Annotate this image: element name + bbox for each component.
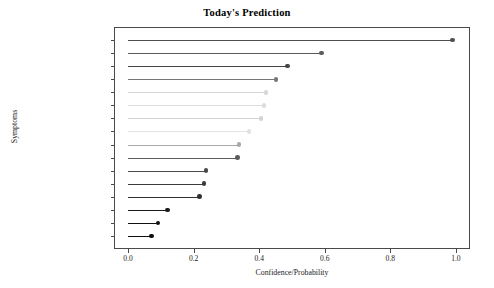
- x-axis-title: Confidence/Probability: [114, 268, 470, 277]
- lollipop-dot: [319, 51, 324, 56]
- lollipop-dot: [204, 168, 209, 173]
- lollipop-dot: [285, 64, 290, 69]
- x-tick-mark: [325, 249, 326, 253]
- y-tick-mark: [111, 236, 115, 237]
- lollipop-stem: [128, 197, 199, 198]
- lollipop-dot: [247, 129, 252, 134]
- lollipop-dot: [450, 38, 455, 43]
- lollipop-stem: [128, 40, 453, 41]
- y-tick-mark: [111, 158, 115, 159]
- lollipop-dot: [156, 221, 161, 226]
- y-tick-mark: [111, 118, 115, 119]
- lollipop-dot: [259, 116, 264, 121]
- lollipop-stem: [128, 53, 321, 54]
- x-tick-label: 1.0: [441, 254, 471, 263]
- y-tick-mark: [111, 197, 115, 198]
- x-tick-mark: [390, 249, 391, 253]
- lollipop-dot: [202, 181, 207, 186]
- lollipop-stem: [128, 131, 249, 132]
- lollipop-stem: [128, 92, 266, 93]
- y-tick-mark: [111, 145, 115, 146]
- x-tick-mark: [128, 249, 129, 253]
- lollipop-stem: [128, 66, 287, 67]
- lollipop-dot: [264, 90, 269, 95]
- lollipop-stem: [128, 118, 261, 119]
- lollipop-stem: [128, 184, 204, 185]
- y-tick-mark: [111, 53, 115, 54]
- y-tick-mark: [111, 92, 115, 93]
- lollipop-stem: [128, 171, 206, 172]
- lollipop-dot: [235, 155, 240, 160]
- y-tick-mark: [111, 210, 115, 211]
- y-tick-mark: [111, 40, 115, 41]
- lollipop-dot: [237, 142, 242, 147]
- x-tick-label: 0.8: [375, 254, 405, 263]
- x-tick-label: 0.0: [113, 254, 143, 263]
- x-tick-label: 0.4: [244, 254, 274, 263]
- y-axis-title: Symptoms: [10, 92, 19, 162]
- lollipop-stem: [128, 236, 152, 237]
- lollipop-dot: [262, 103, 267, 108]
- lollipop-stem: [128, 105, 264, 106]
- x-tick-label: 0.6: [310, 254, 340, 263]
- lollipop-dot: [165, 208, 170, 213]
- chart-root: Today's Prediction 0.00.20.40.60.81.0 Co…: [0, 0, 494, 288]
- chart-title: Today's Prediction: [0, 7, 494, 18]
- lollipop-stem: [128, 223, 158, 224]
- y-tick-mark: [111, 223, 115, 224]
- lollipop-dot: [197, 194, 202, 199]
- y-tick-mark: [111, 105, 115, 106]
- x-tick-mark: [456, 249, 457, 253]
- lollipop-dot: [274, 77, 279, 82]
- lollipop-stem: [128, 145, 239, 146]
- x-tick-label: 0.2: [179, 254, 209, 263]
- y-tick-mark: [111, 79, 115, 80]
- y-tick-mark: [111, 171, 115, 172]
- lollipop-stem: [128, 158, 237, 159]
- lollipop-stem: [128, 79, 276, 80]
- lollipop-dot: [149, 234, 154, 239]
- y-tick-mark: [111, 184, 115, 185]
- y-tick-mark: [111, 66, 115, 67]
- x-tick-mark: [259, 249, 260, 253]
- lollipop-stem: [128, 210, 167, 211]
- y-tick-mark: [111, 131, 115, 132]
- x-tick-mark: [194, 249, 195, 253]
- plot-area: [114, 27, 470, 249]
